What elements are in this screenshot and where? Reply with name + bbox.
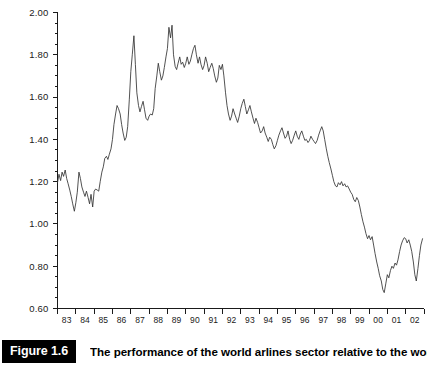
x-tick-label: 96: [300, 315, 310, 325]
x-tick-label: 87: [135, 315, 145, 325]
y-tick-label: 2.00: [29, 7, 48, 18]
x-tick-label: 02: [410, 315, 420, 325]
x-tick-label: 90: [190, 315, 200, 325]
y-tick-label: 1.20: [29, 176, 48, 187]
x-axis-tick-labels: 8384858687888990919293949596979899000102: [62, 315, 420, 325]
x-tick-label: 86: [117, 315, 127, 325]
y-tick-label: 0.60: [29, 303, 48, 314]
figure-number-badge: Figure 1.6: [2, 340, 76, 364]
x-tick-label: 97: [318, 315, 328, 325]
chart-plot-area: 0.600.801.001.201.401.601.802.00 8384858…: [0, 0, 427, 336]
x-tick-label: 01: [392, 315, 402, 325]
y-tick-label: 1.80: [29, 49, 48, 60]
x-tick-label: 98: [337, 315, 347, 325]
x-tick-label: 91: [208, 315, 218, 325]
x-axis-ticks: [58, 309, 425, 314]
figure-caption-bar: Figure 1.6 The performance of the world …: [0, 338, 427, 365]
y-tick-label: 1.00: [29, 218, 48, 229]
x-tick-label: 00: [373, 315, 383, 325]
y-tick-label: 0.80: [29, 261, 48, 272]
y-tick-label: 1.40: [29, 134, 48, 145]
x-tick-label: 93: [245, 315, 255, 325]
x-tick-label: 85: [98, 315, 108, 325]
x-tick-label: 83: [62, 315, 72, 325]
x-tick-label: 94: [263, 315, 273, 325]
data-series-line: [58, 25, 423, 292]
x-tick-label: 99: [355, 315, 365, 325]
figure-caption-text: The performance of the world arlines sec…: [90, 345, 427, 358]
axis-frame: [58, 13, 425, 309]
y-tick-label: 1.60: [29, 91, 48, 102]
x-tick-label: 92: [227, 315, 237, 325]
y-axis-tick-labels: 0.600.801.001.201.401.601.802.00: [29, 7, 48, 314]
line-chart: 0.600.801.001.201.401.601.802.00 8384858…: [0, 0, 427, 336]
x-tick-label: 84: [80, 315, 90, 325]
x-tick-label: 89: [172, 315, 182, 325]
x-tick-label: 88: [153, 315, 163, 325]
x-tick-label: 95: [282, 315, 292, 325]
figure-container: 0.600.801.001.201.401.601.802.00 8384858…: [0, 0, 427, 365]
